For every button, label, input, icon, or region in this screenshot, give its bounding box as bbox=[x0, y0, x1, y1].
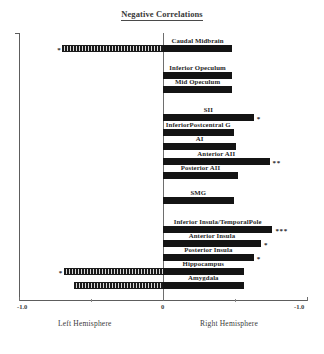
significance-marker-right: ** bbox=[273, 159, 281, 167]
x-axis-tick-label: -1.0 bbox=[294, 303, 304, 310]
bar-label: Posterior AII bbox=[163, 164, 238, 171]
significance-marker-right: *** bbox=[275, 227, 287, 235]
significance-marker-right: * bbox=[264, 241, 268, 249]
bar-label: Hippocampus bbox=[163, 260, 244, 267]
bar-left-hemisphere bbox=[64, 268, 163, 275]
significance-marker-left: * bbox=[59, 269, 63, 277]
significance-marker-right: * bbox=[257, 115, 261, 123]
significance-marker-right: * bbox=[257, 255, 261, 263]
bar-label: Anterior Insula bbox=[163, 232, 261, 239]
bar-left-hemisphere bbox=[62, 45, 163, 52]
plot-area: *Caudal MidbrainInferior OpeculumMid Ope… bbox=[0, 0, 324, 354]
bar-label: SII bbox=[163, 106, 254, 113]
y-axis-line bbox=[19, 33, 20, 300]
bar-right-hemisphere bbox=[163, 45, 232, 52]
bar-left-hemisphere bbox=[74, 282, 163, 289]
x-axis-tick bbox=[19, 297, 20, 301]
bar-right-hemisphere bbox=[163, 172, 238, 179]
bar-label: Amygdala bbox=[163, 274, 244, 281]
left-hemisphere-label: Left Hemisphere bbox=[58, 319, 112, 328]
bar-right-hemisphere bbox=[163, 86, 232, 93]
bar-right-hemisphere bbox=[163, 197, 234, 204]
x-axis-tick-label: 0 bbox=[161, 303, 164, 310]
x-axis-tick bbox=[163, 297, 164, 301]
right-hemisphere-label: Right Hemisphere bbox=[200, 319, 258, 328]
x-axis-tick-label: -1.0 bbox=[17, 303, 27, 310]
bar-label: InferiorPostcentral G bbox=[163, 121, 234, 128]
bar-label: Anterior AII bbox=[163, 150, 270, 157]
bar-label: Posterior Insula bbox=[163, 246, 254, 253]
x-axis-tick bbox=[307, 297, 308, 301]
x-axis-minor-tick bbox=[91, 299, 92, 302]
bar-label: Inferior Insula/TemporalPole bbox=[163, 218, 272, 225]
bar-right-hemisphere bbox=[163, 282, 244, 289]
figure-negative-correlations: Negative Correlations *Caudal MidbrainIn… bbox=[0, 0, 324, 354]
bar-label: AI bbox=[163, 135, 236, 142]
bar-label: SMG bbox=[163, 189, 234, 196]
x-axis-minor-tick bbox=[235, 299, 236, 302]
bar-label: Caudal Midbrain bbox=[163, 37, 232, 44]
bar-label: Inferior Opeculum bbox=[163, 64, 232, 71]
significance-marker-left: * bbox=[57, 46, 61, 54]
bar-label: Mid Opeculum bbox=[163, 78, 232, 85]
